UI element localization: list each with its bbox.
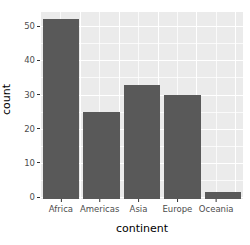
bar-chart: count 50 40 30 20 10 0 bbox=[0, 0, 250, 245]
y-axis-tick-label: 0 bbox=[30, 191, 35, 203]
bar-oceania bbox=[205, 192, 241, 199]
y-axis-tick-label: 10 bbox=[24, 157, 35, 169]
y-axis-tick: 10 bbox=[24, 157, 41, 169]
y-axis-tick-mark-icon bbox=[37, 60, 40, 61]
y-axis-title-label: count bbox=[1, 84, 14, 115]
x-axis-tick-mark-icon bbox=[138, 199, 139, 202]
gridline-major-vertical bbox=[80, 12, 81, 199]
y-axis-tick-mark-icon bbox=[37, 197, 40, 198]
gridline-major-vertical bbox=[235, 12, 236, 199]
bar-asia bbox=[124, 85, 160, 199]
y-axis-tick: 30 bbox=[24, 89, 41, 101]
y-axis-tick-mark-icon bbox=[37, 128, 40, 129]
y-axis: 50 40 30 20 10 0 bbox=[14, 0, 41, 245]
bar-americas bbox=[83, 112, 119, 199]
plot-panel bbox=[41, 12, 243, 199]
y-axis-tick-label: 30 bbox=[24, 89, 35, 101]
x-axis-title-label: continent bbox=[116, 222, 168, 235]
y-axis-tick-mark-icon bbox=[37, 162, 40, 163]
x-axis-tick-label: Africa bbox=[49, 204, 73, 215]
bar-europe bbox=[164, 95, 200, 199]
y-axis-tick-label: 20 bbox=[24, 123, 35, 135]
x-axis-tick-label: Oceania bbox=[199, 204, 234, 215]
y-axis-tick-label: 50 bbox=[24, 20, 35, 32]
x-axis-tick-mark-icon bbox=[216, 199, 217, 202]
x-axis-tick-mark-icon bbox=[60, 199, 61, 202]
y-axis-tick: 20 bbox=[24, 123, 41, 135]
y-axis-tick-mark-icon bbox=[37, 94, 40, 95]
gridline-minor-vertical bbox=[216, 12, 217, 199]
x-axis-tick-label: Americas bbox=[80, 204, 120, 215]
bar-africa bbox=[43, 19, 79, 199]
y-axis-tick-label: 40 bbox=[24, 54, 35, 66]
y-axis-title: count bbox=[0, 0, 14, 199]
x-axis-tick-mark-icon bbox=[177, 199, 178, 202]
x-axis-tick: Africa bbox=[49, 199, 73, 215]
x-axis-tick-mark-icon bbox=[99, 199, 100, 202]
x-axis-tick: Americas bbox=[80, 199, 120, 215]
x-axis-tick-label: Asia bbox=[130, 204, 148, 215]
x-axis-tick: Asia bbox=[130, 199, 148, 215]
x-axis-tick: Oceania bbox=[199, 199, 234, 215]
x-axis: Africa Americas Asia Europe Oceania bbox=[41, 199, 243, 217]
x-axis-tick: Europe bbox=[162, 199, 192, 215]
x-axis-tick-label: Europe bbox=[162, 204, 192, 215]
y-axis-tick: 40 bbox=[24, 54, 41, 66]
y-axis-tick-mark-icon bbox=[37, 26, 40, 27]
y-axis-tick: 50 bbox=[24, 20, 41, 32]
x-axis-title: continent bbox=[41, 222, 243, 235]
y-axis-tick: 0 bbox=[30, 191, 41, 203]
